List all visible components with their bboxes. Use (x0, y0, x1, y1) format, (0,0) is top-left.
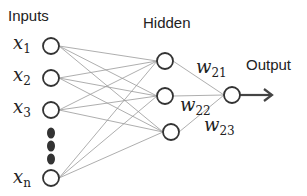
weight-label-w21: w21 (196, 56, 227, 80)
hidden-label: Hidden (143, 14, 191, 31)
input-node (43, 70, 59, 86)
edge-input-hidden (59, 61, 157, 178)
inputs-label: Inputs (8, 7, 49, 24)
output-label: Output (246, 56, 291, 73)
ellipsis-dot-icon (47, 128, 55, 139)
ellipsis-dot-icon (47, 154, 55, 165)
input-label-x2: x2 (13, 64, 31, 88)
input-node (43, 38, 59, 54)
input-node (43, 102, 59, 118)
edge-input-hidden (59, 78, 157, 96)
hidden-node (163, 124, 179, 140)
input-label-x1: x1 (13, 32, 31, 56)
output-node (224, 87, 240, 103)
weight-label-w23: w23 (204, 114, 235, 138)
input-label-x3: x3 (13, 96, 31, 120)
edge-input-hidden (59, 46, 163, 132)
ellipsis-dot-icon (47, 141, 55, 152)
edge-input-hidden (59, 61, 157, 78)
edge-input-hidden (59, 78, 163, 132)
input-node (43, 170, 59, 186)
hidden-node (157, 53, 173, 69)
hidden-node (157, 88, 173, 104)
edge-input-hidden (59, 110, 163, 132)
edge-input-hidden (59, 132, 163, 178)
input-label-xn: xn (13, 166, 31, 190)
